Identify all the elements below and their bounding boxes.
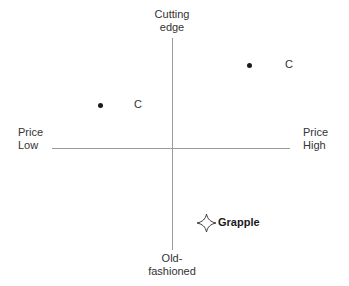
horizontal-axis-line [52,148,290,149]
data-point-label-competitor-2: C [134,98,142,110]
brand-label-grapple: Grapple [218,216,260,229]
vertical-axis-line [172,38,173,250]
axis-label-top: Cutting edge [155,8,190,33]
data-point-competitor-2 [98,103,103,108]
axis-label-bottom: Old- fashioned [148,252,196,277]
four-point-star-icon [196,213,217,233]
axis-label-right: Price High [303,126,328,151]
data-point-competitor-1 [247,63,252,68]
positioning-map: Cutting edge Old- fashioned Price Low Pr… [0,0,349,286]
axis-label-left: Price Low [18,126,43,151]
data-point-label-competitor-1: C [285,58,293,70]
